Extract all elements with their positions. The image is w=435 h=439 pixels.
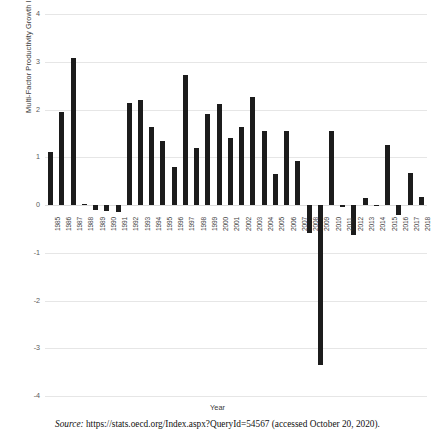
bar xyxy=(329,131,334,205)
gridline-3 xyxy=(45,62,427,63)
bar xyxy=(104,205,109,211)
x-tick-label: 1991 xyxy=(121,217,128,231)
x-tick-label: 2001 xyxy=(233,217,240,231)
bar xyxy=(160,141,165,205)
bar xyxy=(194,148,199,205)
x-tick-label: 1992 xyxy=(132,217,139,231)
x-tick-label: 2017 xyxy=(413,217,420,231)
x-tick-label: 2004 xyxy=(267,217,274,231)
y-tick-label: 3 xyxy=(6,58,40,66)
source-label: Source: xyxy=(55,419,84,429)
x-tick-label: 1999 xyxy=(211,217,218,231)
x-tick-label: 1998 xyxy=(200,217,207,231)
x-tick-label: 2018 xyxy=(424,217,431,231)
figure-container: Multi-Factor Productivity Growth Index f… xyxy=(0,0,435,439)
x-tick-label: 1997 xyxy=(188,217,195,231)
plot-canvas xyxy=(45,14,427,396)
x-tick-label: 2005 xyxy=(278,217,285,231)
x-tick-label: 2014 xyxy=(379,217,386,231)
x-tick-label: 1986 xyxy=(65,217,72,231)
x-tick-label: 2008 xyxy=(312,217,319,231)
bar xyxy=(273,174,278,205)
x-tick-label: 2010 xyxy=(335,217,342,231)
bar xyxy=(340,205,345,207)
y-tick-label: 2 xyxy=(6,106,40,114)
x-tick-label: 2016 xyxy=(402,217,409,231)
bar xyxy=(239,127,244,205)
x-tick-label: 2006 xyxy=(290,217,297,231)
bar xyxy=(408,173,413,205)
y-tick-label: -2 xyxy=(6,297,40,305)
gridline-2 xyxy=(45,110,427,111)
source-url-text: https://stats.oecd.org/Index.aspx?QueryI… xyxy=(86,419,380,429)
x-tick-label: 2007 xyxy=(301,217,308,231)
gridline-neg2 xyxy=(45,301,427,302)
y-tick-label: 0 xyxy=(6,201,40,209)
bar xyxy=(396,205,401,215)
bar xyxy=(71,58,76,205)
x-tick-label: 1989 xyxy=(99,217,106,231)
x-tick-label: 1993 xyxy=(144,217,151,231)
bar xyxy=(48,152,53,205)
gridline-4 xyxy=(45,14,427,15)
x-axis-title: Year xyxy=(0,403,435,412)
x-tick-label: 1988 xyxy=(87,217,94,231)
x-tick-label: 1987 xyxy=(76,217,83,231)
y-tick-label: -3 xyxy=(6,344,40,352)
bar xyxy=(93,205,98,210)
x-tick-label: 1996 xyxy=(177,217,184,231)
bar xyxy=(262,131,267,205)
x-tick-label: 1994 xyxy=(155,217,162,231)
x-tick-label: 1995 xyxy=(166,217,173,231)
x-tick-label: 2002 xyxy=(245,217,252,231)
gridline-neg1 xyxy=(45,253,427,254)
x-tick-label: 2015 xyxy=(391,217,398,231)
y-tick-label: -4 xyxy=(6,392,40,400)
bar xyxy=(183,75,188,205)
bar xyxy=(228,138,233,205)
gridline-0 xyxy=(45,205,427,206)
bar xyxy=(419,197,424,205)
x-tick-label: 2011 xyxy=(346,217,353,231)
bar xyxy=(374,205,379,206)
x-tick-label: 2000 xyxy=(222,217,229,231)
x-tick-label: 2012 xyxy=(357,217,364,231)
gridline-neg3 xyxy=(45,348,427,349)
bar xyxy=(59,112,64,205)
y-tick-label: 1 xyxy=(6,153,40,161)
bar xyxy=(284,131,289,205)
source-caption: Source: https://stats.oecd.org/Index.asp… xyxy=(0,418,435,430)
bar xyxy=(363,198,368,205)
x-tick-label: 2009 xyxy=(323,217,330,231)
bar xyxy=(385,145,390,205)
bar xyxy=(217,104,222,205)
gridline-neg4 xyxy=(45,396,427,397)
x-tick-label: 1985 xyxy=(54,217,61,231)
bar xyxy=(205,114,210,205)
y-tick-label: -1 xyxy=(6,249,40,257)
bar xyxy=(149,127,154,205)
gridline-1 xyxy=(45,157,427,158)
bar xyxy=(250,97,255,205)
x-tick-label: 1990 xyxy=(110,217,117,231)
x-tick-label: 2003 xyxy=(256,217,263,231)
bar xyxy=(295,161,300,205)
bar xyxy=(138,100,143,205)
bar xyxy=(82,204,87,205)
bar xyxy=(172,167,177,205)
y-tick-label: 4 xyxy=(6,10,40,18)
chart-plot-region: Multi-Factor Productivity Growth Index f… xyxy=(0,0,435,405)
x-tick-label: 2013 xyxy=(368,217,375,231)
bar xyxy=(116,205,121,212)
bar xyxy=(127,103,132,205)
